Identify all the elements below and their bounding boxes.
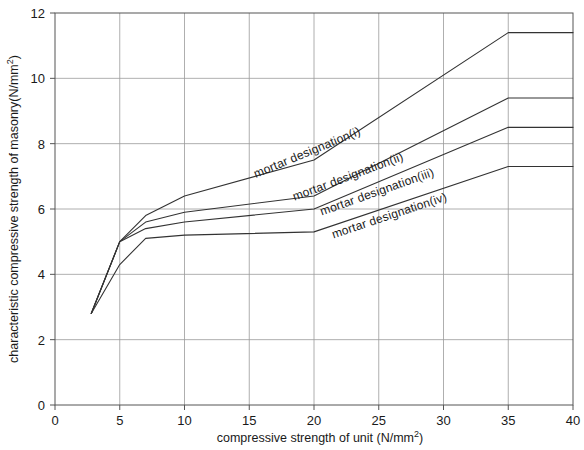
chart-svg: 0510152025303540 024681012 mortar design… (0, 0, 584, 450)
x-tick-label: 15 (242, 413, 256, 428)
y-tick-label: 12 (31, 6, 45, 21)
x-tick-label: 25 (372, 413, 386, 428)
x-tick-label: 40 (566, 413, 580, 428)
x-tick-label: 30 (436, 413, 450, 428)
y-tick-label: 4 (38, 267, 45, 282)
y-axis-title-tail: ) (7, 55, 21, 59)
x-tick-label: 0 (51, 413, 58, 428)
y-tick-label: 2 (38, 333, 45, 348)
x-axis-title: compressive strength of unit (N/mm2) (217, 429, 423, 445)
y-tick-label: 10 (31, 71, 45, 86)
x-tick-label: 35 (501, 413, 515, 428)
y-tick-label: 8 (38, 137, 45, 152)
x-axis-title-tail: ) (419, 431, 423, 445)
y-axis-title: characteristic compressive strength of m… (5, 55, 21, 363)
x-tick-label: 5 (116, 413, 123, 428)
chart-figure: 0510152025303540 024681012 mortar design… (0, 0, 584, 450)
y-axis-title-base: characteristic compressive strength of m… (7, 64, 21, 363)
y-tick-label: 0 (38, 398, 45, 413)
x-tick-label: 10 (177, 413, 191, 428)
chart-background (0, 0, 584, 450)
y-tick-label: 6 (38, 202, 45, 217)
x-tick-label: 20 (307, 413, 321, 428)
x-axis-title-base: compressive strength of unit (N/mm (217, 431, 414, 445)
